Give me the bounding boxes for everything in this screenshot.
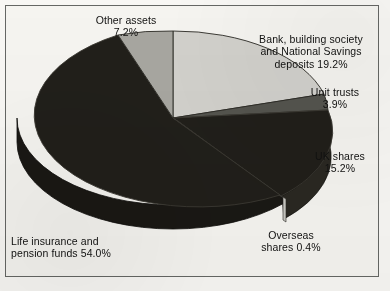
pie-label-bank-deposits: Bank, building society and National Savi… <box>238 33 384 70</box>
pie-chart-figure: Bank, building society and National Savi… <box>0 0 390 291</box>
pie-label-other-assets: Other assets 7.2% <box>66 14 186 39</box>
pie-label-life-insurance: Life insurance and pension funds 54.0% <box>11 235 161 260</box>
pie-slice-overseas-shares-edge <box>283 197 286 222</box>
pie-label-uk-shares: UK shares 15.2% <box>296 150 384 175</box>
pie-label-overseas-shares: Overseas shares 0.4% <box>236 229 346 254</box>
pie-label-unit-trusts: Unit trusts 3.9% <box>286 86 384 111</box>
